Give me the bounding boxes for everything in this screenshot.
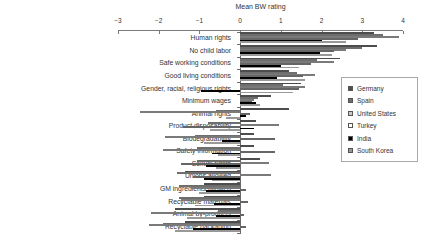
- bar-turkey: [183, 126, 240, 128]
- legend-item-spain: Spain: [348, 96, 417, 105]
- legend-label: United States: [357, 110, 396, 117]
- bar-south-korea: [240, 79, 305, 81]
- x-tick-label: 0: [228, 17, 252, 24]
- legend-label: Spain: [357, 97, 374, 104]
- bar-south-korea: [210, 129, 241, 131]
- x-tick-mark: [403, 31, 404, 34]
- bar-united-states: [240, 162, 269, 164]
- x-tick-label: −1: [187, 17, 211, 24]
- bar-south-korea: [226, 117, 240, 119]
- bar-germany: [240, 158, 260, 160]
- legend: GermanySpainUnited StatesTurkeyIndiaSout…: [341, 77, 418, 162]
- legend-swatch-icon: [348, 148, 353, 153]
- bar-united-states: [151, 212, 241, 214]
- bar-turkey: [240, 214, 244, 216]
- bar-united-states: [149, 224, 241, 226]
- axis-title: Mean BW rating: [200, 3, 321, 10]
- legend-label: Germany: [357, 85, 384, 92]
- category-label: Good living conditions: [0, 71, 231, 80]
- bar-united-states: [240, 174, 271, 176]
- bar-turkey: [240, 201, 248, 203]
- bar-south-korea: [187, 217, 240, 219]
- legend-item-germany: Germany: [348, 84, 417, 93]
- bar-united-states: [163, 149, 240, 151]
- bar-south-korea: [240, 92, 293, 94]
- bar-turkey: [240, 151, 275, 153]
- bar-south-korea: [240, 41, 346, 43]
- bar-south-korea: [240, 54, 332, 56]
- bar-south-korea: [195, 205, 240, 207]
- legend-swatch-icon: [348, 123, 353, 128]
- bar-south-korea: [218, 154, 240, 156]
- legend-item-turkey: Turkey: [348, 121, 417, 130]
- bar-turkey: [240, 226, 246, 228]
- legend-item-india: India: [348, 134, 417, 143]
- x-tick-label: −3: [106, 17, 130, 24]
- bar-india: [240, 115, 246, 117]
- bar-south-korea: [212, 180, 241, 182]
- legend-swatch-icon: [348, 111, 353, 116]
- legend-swatch-icon: [348, 98, 353, 103]
- legend-item-united-states: United States: [348, 109, 417, 118]
- x-axis-line: [118, 30, 403, 31]
- bar-united-states: [165, 136, 240, 138]
- bar-india: [201, 90, 240, 92]
- legend-item-south-korea: South Korea: [348, 146, 417, 155]
- x-tick-label: 4: [391, 17, 415, 24]
- legend-label: India: [357, 135, 371, 142]
- bar-south-korea: [199, 192, 240, 194]
- bar-turkey: [240, 138, 275, 140]
- legend-swatch-icon: [348, 86, 353, 91]
- bar-germany: [240, 145, 254, 147]
- bar-south-korea: [240, 67, 299, 69]
- bar-south-korea: [175, 230, 240, 232]
- legend-label: Turkey: [357, 122, 377, 129]
- bar-spain: [197, 160, 240, 162]
- x-tick-label: −2: [147, 17, 171, 24]
- bar-united-states: [140, 111, 240, 113]
- bar-india: [240, 128, 254, 130]
- bar-turkey: [240, 189, 246, 191]
- bar-united-states: [240, 124, 279, 126]
- category-label: Safe working conditions: [0, 58, 231, 67]
- bar-spain: [177, 172, 240, 174]
- legend-label: South Korea: [357, 147, 393, 154]
- bar-germany: [240, 108, 289, 110]
- bar-united-states: [181, 199, 240, 201]
- category-label: Minimum wages: [0, 96, 231, 105]
- x-tick-label: 3: [350, 17, 374, 24]
- x-tick-label: 2: [310, 17, 334, 24]
- bar-south-korea: [240, 104, 260, 106]
- bar-south-korea: [216, 167, 240, 169]
- legend-swatch-icon: [348, 136, 353, 141]
- bar-united-states: [191, 187, 240, 189]
- bar-turkey: [240, 88, 299, 90]
- category-tick-mark: [237, 233, 240, 234]
- bar-spain: [208, 122, 241, 124]
- category-label: No child labor: [0, 46, 231, 55]
- bar-chart-figure: Mean BW rating GermanySpainUnited States…: [0, 0, 421, 238]
- bar-south-korea: [204, 142, 241, 144]
- category-label: Human rights: [0, 33, 231, 42]
- category-label: Gender, racial, religious rights: [0, 84, 231, 93]
- x-tick-label: 1: [269, 17, 293, 24]
- bar-germany: [240, 133, 254, 135]
- bar-germany: [240, 120, 256, 122]
